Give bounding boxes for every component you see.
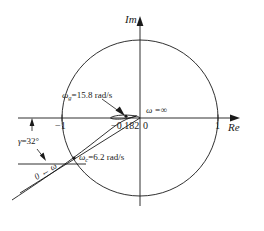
phase-crossover-value: =15.8 rad/s [72,90,113,100]
gain-crossover-value: =6.2 rad/s [88,152,124,162]
phase-crossover-leader [102,99,125,116]
minus-one-tick-label: −1 [55,121,66,131]
intercept-value-label: −0.182 [111,121,139,131]
imaginary-axis-label: Im [125,14,137,25]
nyquist-plot-canvas [0,0,264,231]
phase-crossover-annotation: ωg=15.8 rad/s [62,91,112,101]
phase-margin-value: =32° [22,136,40,146]
gain-crossover-point-marker [72,156,75,159]
origin-tick-label: 0 [143,121,148,131]
nyquist-plot-figure: Im Re 0 −1 1 −0.182 ωg=15.8 rad/s ωc=6.2… [0,0,264,231]
omega-infinity-annotation: ω =∞ [146,106,167,115]
real-axis-label: Re [228,122,240,133]
phase-crossover-leader-arrowhead [116,107,126,116]
phase-crossover-point-marker [125,115,128,118]
one-tick-label: 1 [215,121,220,131]
phase-margin-annotation: γ=32° [18,137,39,146]
imaginary-axis-arrowhead [137,16,144,26]
gain-crossover-annotation: ωc=6.2 rad/s [79,153,124,163]
imaginary-axis [137,16,144,206]
gamma-upper-arrowhead [30,118,35,126]
